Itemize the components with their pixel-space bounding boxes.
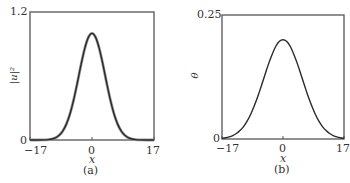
data-curve-theta [222, 40, 344, 139]
xtick-right-b: 17 [336, 143, 350, 154]
axes-frame [222, 15, 344, 139]
caption-b: (b) [274, 163, 290, 176]
xtick-left-b: −17 [216, 143, 239, 154]
ytick-top-b: 0.25 [197, 9, 222, 20]
ylabel-b: θ [189, 72, 200, 78]
